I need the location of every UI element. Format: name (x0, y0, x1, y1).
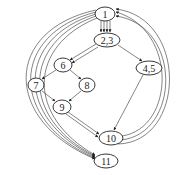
node-4-5-label: 4,5 (143, 63, 156, 74)
edge-6-to-8 (70, 70, 81, 79)
edge-2-3-to-4-5 (118, 45, 142, 61)
node-1-label: 1 (103, 9, 108, 20)
node-8: 8 (79, 78, 95, 92)
edge-1-to-2-3 (101, 21, 110, 32)
node-8-label: 8 (85, 80, 90, 91)
node-9-label: 9 (60, 102, 65, 113)
control-flow-graph: 1 2,3 6 4,5 7 8 9 10 (0, 0, 184, 175)
node-2-3-label: 2,3 (101, 35, 114, 46)
node-11-label: 11 (101, 156, 111, 167)
node-4-5: 4,5 (136, 61, 162, 75)
edge-4-5-to-10 (114, 75, 143, 130)
edge-6-to-7 (42, 70, 56, 79)
nodes: 1 2,3 6 4,5 7 8 9 10 (28, 7, 162, 168)
node-7: 7 (28, 78, 44, 92)
edge-8-to-9 (69, 91, 81, 101)
node-2-3: 2,3 (94, 33, 120, 47)
node-1: 1 (95, 7, 115, 21)
edge-10-to-1 (116, 9, 170, 144)
node-10: 10 (99, 131, 123, 145)
node-9: 9 (53, 100, 71, 114)
edge-2-3-to-6 (70, 44, 98, 63)
edge-7-to-9 (42, 91, 55, 101)
node-10-label: 10 (106, 133, 116, 144)
node-6-label: 6 (61, 60, 66, 71)
node-7-label: 7 (34, 80, 39, 91)
edge-9-to-10 (66, 112, 99, 137)
node-6: 6 (54, 58, 72, 72)
node-11: 11 (94, 154, 118, 168)
edges (26, 9, 169, 159)
